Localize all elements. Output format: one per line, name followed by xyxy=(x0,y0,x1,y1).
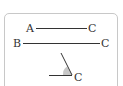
label-a: A xyxy=(25,22,35,35)
angle-shade xyxy=(63,67,72,76)
geometry-diagram: A C B C C xyxy=(0,0,123,86)
label-c-row2: C xyxy=(101,37,109,50)
label-b: B xyxy=(13,37,21,50)
label-c-row1: C xyxy=(88,22,96,35)
label-c-angle: C xyxy=(74,71,82,84)
